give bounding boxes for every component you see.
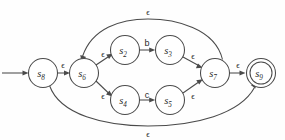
- edge-s8-s9-bottom-arc: [50, 83, 257, 126]
- automaton-diagram: ϵ ϵ b ϵ ϵ c ϵ ϵ ϵ ϵ s8 s6 s2: [0, 0, 285, 140]
- node-layer: s8 s6 s2 s3 s4 s5: [29, 36, 276, 115]
- edge-label-s8-s6: ϵ: [61, 60, 65, 70]
- edge-s8-s6: [58, 70, 71, 75]
- edge-label-s3-s7: ϵ: [191, 51, 195, 61]
- start-arrow: [2, 70, 29, 75]
- edge-label-s8-s9: ϵ: [146, 129, 150, 139]
- state-node-s8[interactable]: s8: [29, 59, 58, 88]
- automaton-svg-canvas: ϵ ϵ b ϵ ϵ c ϵ ϵ ϵ ϵ s8 s6 s2: [0, 0, 285, 140]
- state-node-s6[interactable]: s6: [70, 59, 99, 88]
- edge-label-s7-s9: ϵ: [236, 60, 240, 70]
- edge-label-s7-s6: ϵ: [146, 7, 150, 17]
- edge-label-s5-s7: ϵ: [191, 91, 195, 101]
- edge-label-s6-s4: ϵ: [101, 91, 105, 101]
- edge-s7-s9: [230, 70, 246, 75]
- state-node-s3[interactable]: s3: [156, 36, 185, 65]
- edge-s2-s3: [140, 47, 156, 52]
- state-node-s2[interactable]: s2: [111, 36, 140, 65]
- edge-label-s4-s5: c: [145, 90, 150, 100]
- edge-label-s6-s2: ϵ: [101, 49, 105, 59]
- state-node-s9[interactable]: s9: [247, 59, 276, 88]
- state-node-s7[interactable]: s7: [201, 59, 230, 88]
- state-node-s5[interactable]: s5: [156, 86, 185, 115]
- edge-label-s2-s3: b: [144, 38, 149, 48]
- state-node-s4[interactable]: s4: [111, 86, 140, 115]
